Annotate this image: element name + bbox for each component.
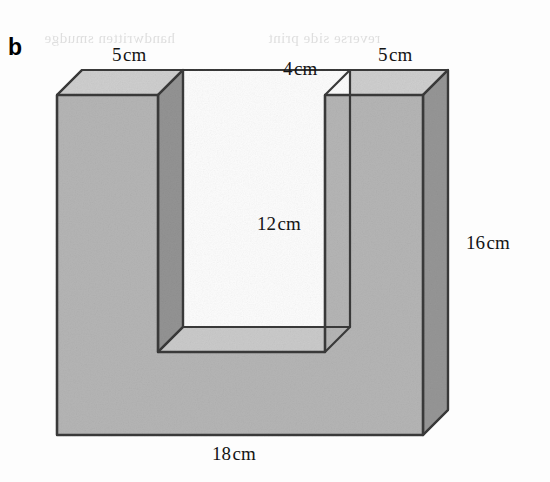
dimension-unit: cm (278, 213, 301, 234)
dimension-unit: cm (389, 44, 412, 65)
dimension-unit: cm (233, 443, 256, 464)
dimension-label-total-width: 18cm (212, 443, 256, 465)
dimension-unit: cm (123, 44, 146, 65)
figure-page: handwritten smudge reverse side print fa… (0, 0, 550, 482)
right-side-face (423, 70, 448, 435)
dimension-value: 4 (283, 58, 293, 79)
slot-inner-left-wall (158, 70, 183, 352)
dimension-unit: cm (487, 232, 510, 253)
part-letter-label: b (8, 34, 22, 61)
dimension-label-top-right-width: 5cm (378, 44, 412, 66)
dimension-value: 12 (257, 213, 276, 234)
dimension-value: 16 (466, 232, 485, 253)
dimension-label-gap-width: 4cm (283, 58, 317, 80)
dimension-value: 5 (112, 44, 122, 65)
dimension-label-slot-depth: 12cm (257, 213, 301, 235)
dimension-label-top-left-width: 5cm (112, 44, 146, 66)
dimension-label-total-height: 16cm (466, 232, 510, 254)
slot-floor (158, 327, 350, 352)
dimension-value: 5 (378, 44, 388, 65)
dimension-unit: cm (294, 58, 317, 79)
dimension-value: 18 (212, 443, 231, 464)
